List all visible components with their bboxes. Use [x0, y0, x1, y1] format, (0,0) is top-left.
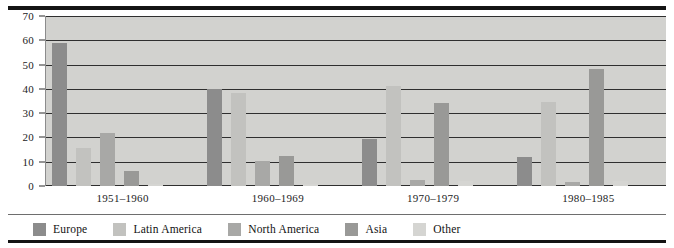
legend-swatch-icon — [345, 223, 358, 236]
bar-group — [517, 16, 660, 186]
legend-item-label: North America — [248, 223, 319, 235]
x-axis-labels: 1951–19601960–19691970–19791980–1985 — [45, 192, 666, 208]
bar-other[interactable] — [613, 181, 628, 186]
y-axis: 010203040506070 — [8, 16, 38, 206]
legend-item[interactable]: Europe — [33, 223, 87, 236]
bar-other[interactable] — [303, 184, 318, 186]
bar-group — [362, 16, 505, 186]
bar-latin-america[interactable] — [231, 93, 246, 187]
chart-legend: EuropeLatin AmericaNorth AmericaAsiaOthe… — [8, 219, 666, 239]
bar-other[interactable] — [458, 181, 473, 186]
bar-asia[interactable] — [124, 171, 139, 186]
chart-figure: 010203040506070 1951–19601960–19691970–1… — [0, 0, 674, 248]
bar-latin-america[interactable] — [541, 102, 556, 186]
y-axis-tick-label: 30 — [23, 107, 34, 119]
bar-group — [52, 16, 195, 186]
bar-latin-america[interactable] — [76, 148, 91, 186]
legend-divider — [8, 214, 666, 215]
bar-north-america[interactable] — [255, 161, 270, 187]
x-axis-category-label: 1980–1985 — [562, 192, 614, 204]
bar-groups — [46, 16, 666, 186]
bar-group — [207, 16, 350, 186]
legend-item-label: Europe — [53, 223, 87, 235]
y-axis-tick-label: 20 — [23, 131, 34, 143]
bottom-rule — [8, 240, 666, 243]
bar-latin-america[interactable] — [386, 86, 401, 186]
bar-europe[interactable] — [52, 43, 67, 186]
bar-europe[interactable] — [517, 157, 532, 186]
bar-north-america[interactable] — [565, 182, 580, 186]
y-axis-tick-label: 10 — [23, 156, 34, 168]
legend-item[interactable]: North America — [228, 223, 319, 236]
y-axis-tick-label: 60 — [23, 34, 34, 46]
legend-item-label: Asia — [365, 223, 387, 235]
legend-item[interactable]: Asia — [345, 223, 387, 236]
plot-area-wrapper: 010203040506070 1951–19601960–19691970–1… — [8, 16, 666, 206]
y-axis-tick-label: 40 — [23, 83, 34, 95]
legend-item-label: Other — [433, 223, 460, 235]
legend-swatch-icon — [113, 223, 126, 236]
y-axis-tick-label: 0 — [28, 180, 34, 192]
x-axis-category-label: 1960–1969 — [252, 192, 304, 204]
legend-swatch-icon — [228, 223, 241, 236]
plot-area — [45, 16, 666, 186]
bar-other[interactable] — [148, 184, 163, 186]
bar-asia[interactable] — [434, 103, 449, 186]
legend-swatch-icon — [413, 223, 426, 236]
x-axis-category-label: 1951–1960 — [97, 192, 149, 204]
top-rule — [8, 6, 666, 10]
bar-europe[interactable] — [207, 89, 222, 186]
legend-item[interactable]: Latin America — [113, 223, 202, 236]
y-axis-tick-label: 70 — [23, 10, 34, 22]
x-axis-category-label: 1970–1979 — [407, 192, 459, 204]
bar-asia[interactable] — [279, 156, 294, 186]
y-axis-tick-label: 50 — [23, 59, 34, 71]
bar-asia[interactable] — [589, 69, 604, 186]
legend-item[interactable]: Other — [413, 223, 460, 236]
legend-swatch-icon — [33, 223, 46, 236]
legend-item-label: Latin America — [133, 223, 202, 235]
bar-europe[interactable] — [362, 139, 377, 186]
bar-north-america[interactable] — [100, 133, 115, 186]
bar-north-america[interactable] — [410, 180, 425, 186]
